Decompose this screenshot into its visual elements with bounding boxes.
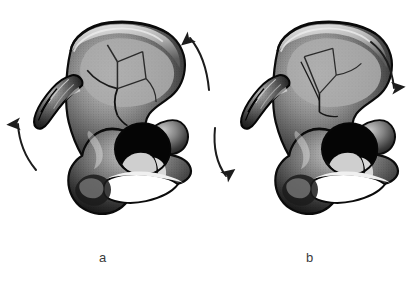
arrow-a-left <box>18 124 36 170</box>
figure-canvas <box>0 0 417 281</box>
panel-label-b: b <box>306 251 313 264</box>
panel-a <box>18 22 209 214</box>
panel-b <box>214 22 397 214</box>
panel-label-a: a <box>99 251 106 264</box>
arrow-a-right <box>190 38 209 90</box>
arrow-b-left <box>214 128 226 176</box>
panel-a-bone <box>34 22 191 214</box>
panel-b-bone <box>241 22 398 214</box>
pelvis-rotation-figure <box>0 0 417 281</box>
